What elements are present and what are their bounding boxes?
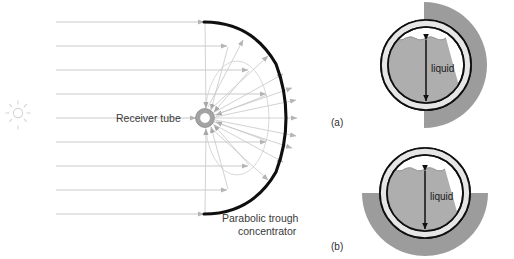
- figure-root: Receiver tube Parabolic trough concentra…: [0, 0, 514, 259]
- diagram-svg: Receiver tube Parabolic trough concentra…: [0, 0, 514, 259]
- liquid-label-b: liquid: [430, 191, 453, 202]
- caption-a: (a): [331, 117, 343, 128]
- receiver-tube: [196, 109, 215, 128]
- liquid-label-a: liquid: [431, 63, 454, 74]
- caption-b: (b): [331, 241, 343, 252]
- concentrator-label-line1: Parabolic trough: [222, 212, 299, 224]
- receiver-tube-label: Receiver tube: [116, 112, 181, 124]
- concentrator-label-line2: concentrator: [238, 225, 297, 237]
